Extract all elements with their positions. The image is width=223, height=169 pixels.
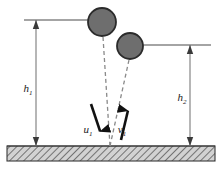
incoming-trajectory-dashed (103, 37, 110, 146)
u1-velocity-arrow (91, 104, 100, 131)
h2-arrowhead-bottom (187, 137, 193, 146)
h2-label: h2 (178, 91, 188, 106)
ball-after-impact (117, 33, 143, 59)
ball-before-impact (88, 8, 116, 36)
h1-arrowhead-top (33, 20, 39, 29)
ground-surface (7, 146, 215, 161)
ground-hatch-rect (7, 146, 215, 161)
h1-arrowhead-bottom (33, 137, 39, 146)
bouncing-ball-diagram: h1 h2 u1 v1 (0, 0, 223, 169)
h1-dimension-arrow (33, 20, 39, 146)
h2-arrowhead-top (187, 45, 193, 54)
h1-label: h1 (24, 82, 33, 97)
u1-label: u1 (84, 123, 93, 138)
diagram-canvas: h1 h2 u1 v1 (0, 0, 223, 169)
h2-dimension-arrow (187, 45, 193, 146)
